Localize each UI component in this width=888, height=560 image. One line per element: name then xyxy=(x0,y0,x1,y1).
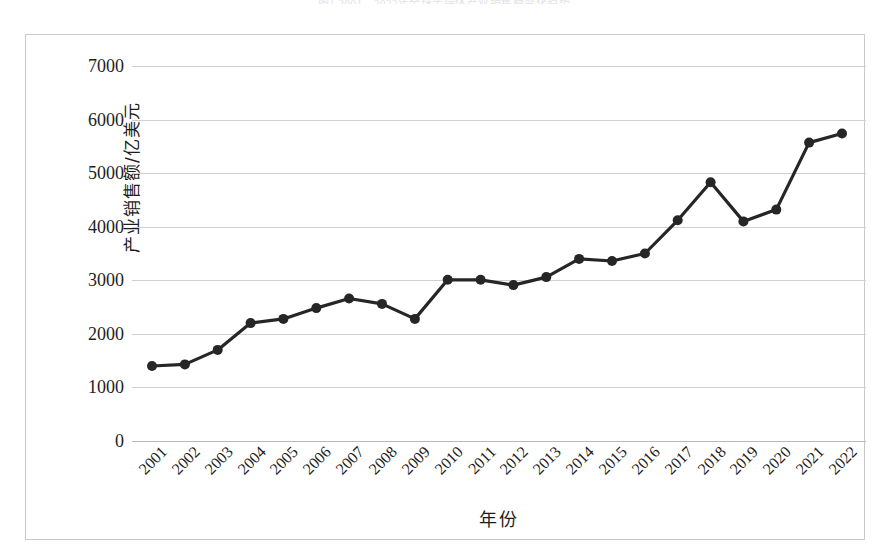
y-axis-tick-label: 4000 xyxy=(64,218,124,236)
y-axis-tick-label: 2000 xyxy=(64,325,124,343)
series-line xyxy=(152,134,842,367)
data-point-marker: 2005: 2280 xyxy=(278,314,288,324)
data-point-marker: 2007: 2660 xyxy=(344,294,354,304)
data-point-marker: 2015: 3360 xyxy=(607,256,617,266)
data-point-marker: 2012: 2910 xyxy=(508,280,518,290)
x-axis-tick-labels: 2001200220032004200520062007200820092010… xyxy=(132,443,866,503)
x-axis-title: 年份 xyxy=(132,505,866,531)
y-axis-tick-label: 1000 xyxy=(64,378,124,396)
data-point-marker: 2008: 2560 xyxy=(377,299,387,309)
data-point-marker: 2013: 3060 xyxy=(541,272,551,282)
data-point-marker: 2016: 3500 xyxy=(640,249,650,259)
data-point-marker: 2001: 1400 xyxy=(147,361,157,371)
y-axis-tick-label: 5000 xyxy=(64,164,124,182)
y-axis-tick-label: 0 xyxy=(64,432,124,450)
data-point-marker: 2009: 2280 xyxy=(410,314,420,324)
chart-frame: 产业销售额/亿美元 01000200030004000500060007000 … xyxy=(25,34,865,540)
y-axis-tick-label: 3000 xyxy=(64,271,124,289)
figure-caption: 图1 2001—2022年全球半导体产业销售额变化趋势 xyxy=(0,0,888,4)
gridline xyxy=(132,441,866,442)
data-point-marker: 2020: 4320 xyxy=(771,205,781,215)
data-point-marker: 2014: 3400 xyxy=(574,254,584,264)
line-series: 2001: 14002002: 14302003: 17002004: 2200… xyxy=(132,66,866,441)
data-point-marker: 2003: 1700 xyxy=(213,345,223,355)
y-axis-tick-labels: 01000200030004000500060007000 xyxy=(62,66,124,441)
data-point-marker: 2010: 3010 xyxy=(443,275,453,285)
data-point-marker: 2011: 3010 xyxy=(476,275,486,285)
data-point-marker: 2018: 4830 xyxy=(706,177,716,187)
y-axis-tick-label: 7000 xyxy=(64,57,124,75)
data-point-marker: 2002: 1430 xyxy=(180,359,190,369)
plot-area: 2001: 14002002: 14302003: 17002004: 2200… xyxy=(132,66,866,441)
data-point-marker: 2004: 2200 xyxy=(246,318,256,328)
data-point-marker: 2017: 4120 xyxy=(673,215,683,225)
data-point-marker: 2022: 5740 xyxy=(837,129,847,139)
data-point-marker: 2019: 4100 xyxy=(738,216,748,226)
data-point-marker: 2021: 5570 xyxy=(804,138,814,148)
data-point-marker: 2006: 2480 xyxy=(311,303,321,313)
y-axis-tick-label: 6000 xyxy=(64,111,124,129)
